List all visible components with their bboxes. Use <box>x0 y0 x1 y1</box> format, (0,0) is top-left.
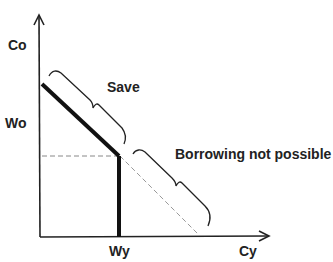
budget-constraint-diagram <box>0 0 333 262</box>
y-axis <box>34 15 44 237</box>
save-label: Save <box>107 79 140 95</box>
y-axis-label: Co <box>8 37 27 53</box>
x-axis-label: Cy <box>239 243 257 259</box>
wo-label: Wo <box>5 115 27 131</box>
borrowing-label: Borrowing not possible <box>175 146 331 162</box>
x-axis <box>40 231 269 241</box>
budget-extension-dashed-line <box>120 156 200 236</box>
wy-label: Wy <box>109 243 130 259</box>
